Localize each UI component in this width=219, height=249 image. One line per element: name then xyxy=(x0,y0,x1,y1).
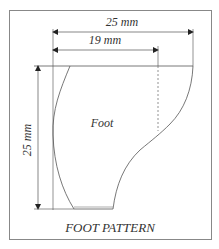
shape-label: Foot xyxy=(90,116,114,130)
diagram-title: FOOT PATTERN xyxy=(64,220,156,235)
foot-pattern-diagram: 25 mm 19 mm 25 mm Foot FOOT PATTERN xyxy=(0,0,219,249)
overall-width-label: 25 mm xyxy=(106,15,139,29)
foot-outline xyxy=(53,66,193,209)
height-label: 25 mm xyxy=(20,124,34,157)
inner-width-label: 19 mm xyxy=(89,33,122,47)
